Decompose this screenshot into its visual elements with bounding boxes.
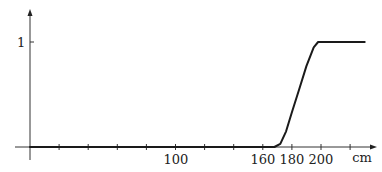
x-tick-label-200: 200: [309, 152, 334, 167]
x-axis-arrow-icon: [370, 145, 377, 150]
y-axis-arrow-icon: [28, 9, 33, 16]
x-tick-label-100: 100: [164, 152, 189, 167]
y-tick-label-1: 1: [17, 35, 25, 50]
x-axis-unit-label: cm: [352, 150, 372, 165]
x-tick-label-180: 180: [280, 152, 305, 167]
x-tick-label-160: 160: [251, 152, 276, 167]
chart: 1 100 160 180 200 cm: [0, 0, 382, 172]
data-curve: [30, 42, 365, 147]
